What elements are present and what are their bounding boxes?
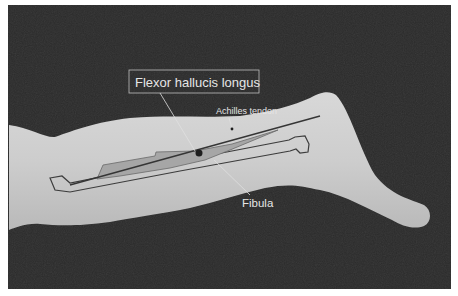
target-dot [196,150,203,157]
achilles-tendon-label: Achilles tendon [216,106,277,116]
fibula-label: Fibula [242,197,274,209]
leg-anatomy-figure: Achilles tendon Flexor hallucis longus F… [0,0,458,296]
flexor-hallucis-longus-label: Flexor hallucis longus [135,75,261,90]
achilles-pointer-dot [231,128,234,131]
